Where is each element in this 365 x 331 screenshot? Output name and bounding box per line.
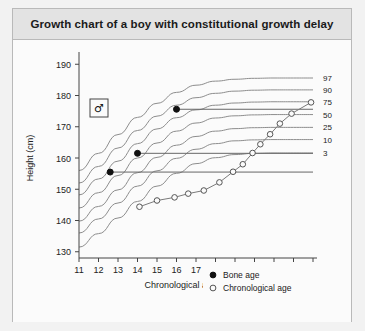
- chronological-age-point-6: [230, 169, 236, 175]
- chronological-age-point-10: [267, 131, 273, 137]
- chronological-age-point-9: [258, 141, 264, 147]
- chronological-age-point-12: [289, 111, 295, 117]
- centile-curve-25: [79, 127, 313, 221]
- percentile-label-97: 97: [323, 74, 332, 83]
- male-symbol-icon: ♂: [94, 102, 104, 115]
- y-axis-title: Height (cm): [25, 135, 35, 182]
- chronological-age-point-8: [250, 150, 256, 156]
- legend-marker-1: [210, 272, 216, 278]
- figure-panel: Growth chart of a boy with constitutiona…: [12, 8, 352, 322]
- percentile-label-3: 3: [323, 149, 328, 158]
- chart-title-bar: Growth chart of a boy with constitutiona…: [13, 9, 351, 40]
- percentile-labels-group: 9790755025103: [323, 74, 332, 158]
- legend-label-2: Chronological age: [223, 283, 292, 293]
- bone-age-point-0: [107, 169, 113, 175]
- percentile-label-10: 10: [323, 136, 332, 145]
- y-tick-label-160: 160: [56, 154, 71, 164]
- chronological-age-point-7: [240, 161, 246, 167]
- y-tick-label-130: 130: [56, 247, 71, 257]
- percentile-label-90: 90: [323, 86, 332, 95]
- sex-symbol-badge: ♂: [90, 99, 108, 117]
- chronological-age-point-5: [217, 180, 223, 186]
- centile-curve-75: [79, 102, 313, 195]
- x-tick-label-16: 16: [171, 265, 181, 275]
- x-tick-label-15: 15: [152, 265, 162, 275]
- bone-age-point-2: [174, 106, 180, 112]
- chart-legend: Bone ageChronological age: [203, 265, 323, 295]
- chronological-age-point-4: [201, 188, 207, 194]
- growth-chart-svg: 130140150160170180190 111213141516171819…: [13, 40, 353, 322]
- x-tick-label-17: 17: [191, 265, 201, 275]
- x-tick-label-13: 13: [113, 265, 123, 275]
- chronological-age-point-0: [137, 204, 143, 210]
- centile-curve-3: [79, 153, 313, 247]
- chronological-age-point-2: [172, 195, 178, 201]
- centile-curves-group: [79, 78, 313, 247]
- x-tick-label-11: 11: [74, 265, 83, 275]
- y-tick-label-140: 140: [56, 216, 71, 226]
- chronological-age-point-3: [185, 191, 191, 197]
- bone-age-point-1: [135, 150, 141, 156]
- y-tick-label-150: 150: [56, 185, 71, 195]
- chronological-age-point-1: [154, 198, 160, 204]
- x-tick-label-12: 12: [93, 265, 103, 275]
- page-title: Growth chart of a boy with constitutiona…: [30, 18, 333, 30]
- percentile-label-50: 50: [323, 111, 332, 120]
- centile-curve-50: [79, 115, 313, 208]
- data-series-group: [107, 100, 314, 210]
- y-tick-label-190: 190: [56, 60, 71, 70]
- y-axis-ticks: 130140150160170180190: [56, 60, 79, 258]
- y-tick-label-180: 180: [56, 91, 71, 101]
- x-tick-label-14: 14: [132, 265, 142, 275]
- chronological-age-line: [139, 102, 311, 206]
- chronological-age-point-13: [308, 100, 314, 106]
- legend-label-1: Bone age: [223, 270, 260, 280]
- legend-marker-2: [210, 285, 216, 291]
- chronological-age-point-11: [277, 121, 283, 127]
- percentile-label-25: 25: [323, 123, 332, 132]
- y-tick-label-170: 170: [56, 122, 71, 132]
- axes-group: [79, 52, 317, 258]
- percentile-label-75: 75: [323, 98, 332, 107]
- plot-area: 130140150160170180190 111213141516171819…: [13, 40, 351, 322]
